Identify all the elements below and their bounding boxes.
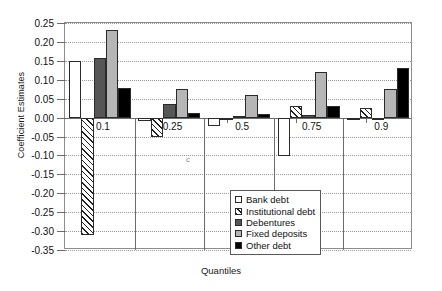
x-axis-tick-label: 0.1 — [96, 121, 110, 132]
figure: Coefficient Estimates 0.250.200.150.100.… — [0, 0, 442, 291]
bar — [151, 118, 163, 138]
bar — [372, 118, 384, 120]
gridline — [65, 137, 411, 138]
bar — [138, 118, 150, 121]
bar — [69, 61, 81, 118]
x-axis-tick-label: 0.9 — [374, 121, 388, 132]
y-axis-tick-label: 0.15 — [35, 55, 54, 66]
y-axis-tick — [57, 61, 65, 62]
y-axis-tick — [57, 137, 65, 138]
legend-label: Debentures — [246, 217, 295, 228]
bar — [302, 115, 314, 117]
legend-swatch-icon — [235, 196, 242, 203]
bar — [163, 104, 175, 118]
legend-swatch-icon — [235, 242, 242, 249]
y-axis-tick-label: -0.30 — [31, 226, 54, 237]
y-axis-tick — [57, 118, 65, 119]
legend-item: Other debt — [235, 240, 315, 251]
legend-item: Debentures — [235, 217, 315, 228]
legend-label: Fixed deposits — [246, 228, 307, 239]
bar — [360, 108, 372, 117]
bar — [397, 68, 409, 118]
y-axis-tick-label: -0.25 — [31, 207, 54, 218]
bar — [245, 95, 257, 118]
y-axis-tick-label: -0.20 — [31, 188, 54, 199]
bar — [278, 118, 290, 157]
legend-swatch-icon — [235, 219, 242, 226]
bar — [94, 58, 106, 118]
y-axis-tick-label: -0.10 — [31, 150, 54, 161]
y-axis-tick-label: 0.10 — [35, 74, 54, 85]
bar — [188, 113, 200, 118]
gridline — [65, 174, 411, 175]
x-axis-group-separator — [204, 118, 205, 250]
y-axis-tick-label: 0.25 — [35, 18, 54, 29]
y-axis-tick — [57, 23, 65, 24]
bar — [327, 106, 339, 117]
bar — [290, 106, 302, 117]
x-axis-tick-label: 0.25 — [163, 121, 182, 132]
y-axis-tick — [57, 193, 65, 194]
y-axis-tick — [57, 42, 65, 43]
y-axis-tick-label: -0.15 — [31, 169, 54, 180]
y-axis-tick-label: 0.20 — [35, 36, 54, 47]
y-axis-tick-label: 0.05 — [35, 93, 54, 104]
x-axis-group-separator — [343, 118, 344, 250]
x-axis-title: Quantiles — [0, 265, 442, 276]
gridline — [65, 155, 411, 156]
bar — [384, 89, 396, 117]
x-axis-tick — [366, 118, 367, 123]
legend-label: Other debt — [246, 240, 291, 251]
legend-label: Institutional debt — [246, 206, 315, 217]
x-axis-tick-label: 0.75 — [302, 121, 321, 132]
y-axis-tick-label: 0.00 — [35, 112, 54, 123]
bar — [347, 118, 359, 120]
legend-swatch-icon — [235, 208, 242, 215]
x-axis-group-separator — [135, 118, 136, 250]
y-axis-title: Coefficient Estimates — [16, 40, 26, 190]
bar — [106, 30, 118, 118]
x-axis-tick-label: 0.5 — [235, 121, 249, 132]
bar — [258, 114, 270, 117]
y-axis-tick-label: -0.05 — [31, 131, 54, 142]
x-axis-tick — [296, 118, 297, 123]
y-axis-tick — [57, 231, 65, 232]
y-axis-tick — [57, 174, 65, 175]
legend-swatch-icon — [235, 230, 242, 237]
bar — [81, 118, 93, 235]
y-axis-tick — [57, 212, 65, 213]
legend-item: Bank debt — [235, 194, 315, 205]
legend-label: Bank debt — [246, 194, 289, 205]
gridline — [65, 23, 411, 24]
stray-character: c — [186, 155, 190, 164]
y-axis-tick — [57, 99, 65, 100]
bar — [233, 116, 245, 118]
legend: Bank debtInstitutional debtDebenturesFix… — [230, 190, 321, 255]
bar — [220, 118, 232, 120]
bar — [208, 118, 220, 126]
legend-item: Fixed deposits — [235, 228, 315, 239]
bar — [118, 88, 130, 118]
y-axis-tick — [57, 250, 65, 251]
legend-item: Institutional debt — [235, 205, 315, 216]
y-axis-tick — [57, 155, 65, 156]
bar — [315, 72, 327, 118]
y-axis-tick-label: -0.35 — [31, 245, 54, 256]
y-axis-tick — [57, 80, 65, 81]
bar — [176, 89, 188, 118]
